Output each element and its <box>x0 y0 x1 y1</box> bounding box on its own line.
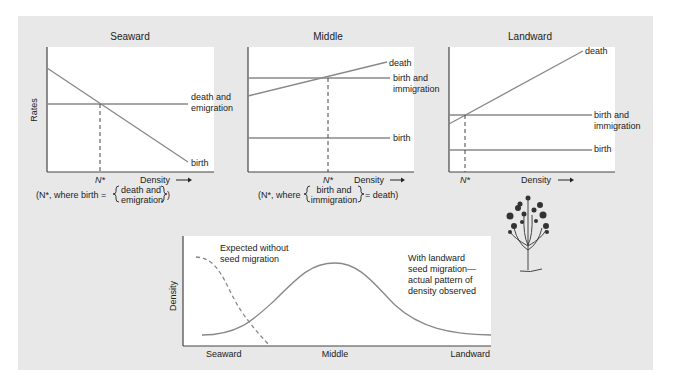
chart-middle: Middle death birth and immigration birth… <box>248 31 440 205</box>
arrow-head-icon <box>401 178 405 183</box>
line-label: emigration <box>191 103 233 113</box>
x-tick-label: Middle <box>322 349 349 359</box>
x-axis-label: Density <box>354 175 385 185</box>
solid-curve-label: density observed <box>408 286 476 296</box>
solid-curve-label: With landward <box>408 253 465 263</box>
line-label: birth and <box>594 110 629 120</box>
plot-area <box>449 47 615 172</box>
line-label: birth and <box>393 73 428 83</box>
line-label: birth <box>191 158 209 168</box>
arrow-head-icon <box>570 178 574 183</box>
caption: (N*, where birth = <box>36 190 106 200</box>
dashed-curve-label: seed migration <box>220 254 279 264</box>
figure-svg: Seaward Rates death and emigration birth… <box>0 0 675 377</box>
x-tick-label: Seaward <box>206 349 242 359</box>
x-axis-label: Density <box>140 175 171 185</box>
y-axis-label: Density <box>168 280 178 311</box>
plant-illustration-icon <box>507 196 550 272</box>
line-label: death <box>585 46 608 56</box>
caption: (N*, where <box>258 190 301 200</box>
caption-brace-line: birth and <box>316 185 351 195</box>
line-label: death and <box>191 92 231 102</box>
chart-seaward: Seaward Rates death and emigration birth… <box>29 31 233 205</box>
caption-brace-line: emigration <box>121 195 163 205</box>
line-label: birth <box>594 144 612 154</box>
chart-title: Landward <box>508 31 552 42</box>
caption: = death) <box>365 190 398 200</box>
chart-title: Middle <box>313 31 343 42</box>
nstar-label: N* <box>323 175 333 185</box>
line-label: birth <box>393 133 411 143</box>
caption: ) <box>167 190 170 200</box>
x-axis-label: Density <box>521 175 552 185</box>
line-label: immigration <box>393 84 440 94</box>
dashed-curve-label: Expected without <box>220 243 289 253</box>
nstar-label: N* <box>460 175 470 185</box>
line-label: death <box>389 58 412 68</box>
line-label: immigration <box>594 121 641 131</box>
arrow-head-icon <box>188 178 192 183</box>
plot-area <box>47 47 214 172</box>
x-tick-label: Landward <box>450 349 490 359</box>
chart-density-gradient: Density Seaward Middle Landward Expected… <box>168 236 491 359</box>
caption-brace-line: immigration <box>311 195 358 205</box>
caption-brace-line: death and <box>121 185 161 195</box>
brace-right-icon <box>358 186 364 202</box>
solid-curve-label: actual pattern of <box>408 275 473 285</box>
chart-title: Seaward <box>110 31 149 42</box>
brace-left-icon <box>113 186 119 202</box>
chart-landward: Landward death birth and immigration bir… <box>449 31 641 185</box>
nstar-label: N* <box>95 175 105 185</box>
solid-curve-label: seed migration— <box>408 264 476 274</box>
y-axis-label: Rates <box>29 98 39 122</box>
brace-left-icon <box>304 186 310 202</box>
